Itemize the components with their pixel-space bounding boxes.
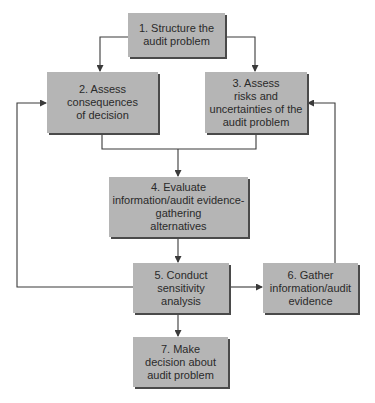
- node-label: 4. Evaluate information/audit evidence- …: [112, 181, 244, 233]
- edge-6-to-3: [308, 103, 335, 263]
- node-sensitivity-analysis: 5. Conduct sensitivity analysis: [133, 263, 229, 313]
- edge-1-to-3: [225, 37, 255, 71]
- edge-1-to-2: [100, 37, 128, 71]
- node-assess-consequences: 2. Assess consequences of decision: [47, 72, 158, 133]
- node-label: 5. Conduct sensitivity analysis: [154, 269, 207, 308]
- node-assess-risks: 3. Assess risks and uncertainties of the…: [205, 72, 307, 133]
- node-gather-evidence: 6. Gather information/audit evidence: [263, 263, 358, 313]
- node-label: 2. Assess consequences of decision: [67, 83, 138, 122]
- node-structure-audit-problem: 1. Structure the audit problem: [128, 13, 225, 57]
- node-label: 3. Assess risks and uncertainties of the…: [210, 77, 303, 129]
- node-label: 7. Make decision about audit problem: [145, 343, 216, 382]
- node-label: 6. Gather information/audit evidence: [270, 269, 351, 308]
- node-evaluate-alternatives: 4. Evaluate information/audit evidence- …: [109, 177, 248, 237]
- edge-2-to-merge: [102, 134, 256, 149]
- node-label: 1. Structure the audit problem: [139, 22, 214, 48]
- audit-decision-flowchart: 1. Structure the audit problem 2. Assess…: [0, 0, 375, 403]
- node-make-decision: 7. Make decision about audit problem: [133, 337, 228, 387]
